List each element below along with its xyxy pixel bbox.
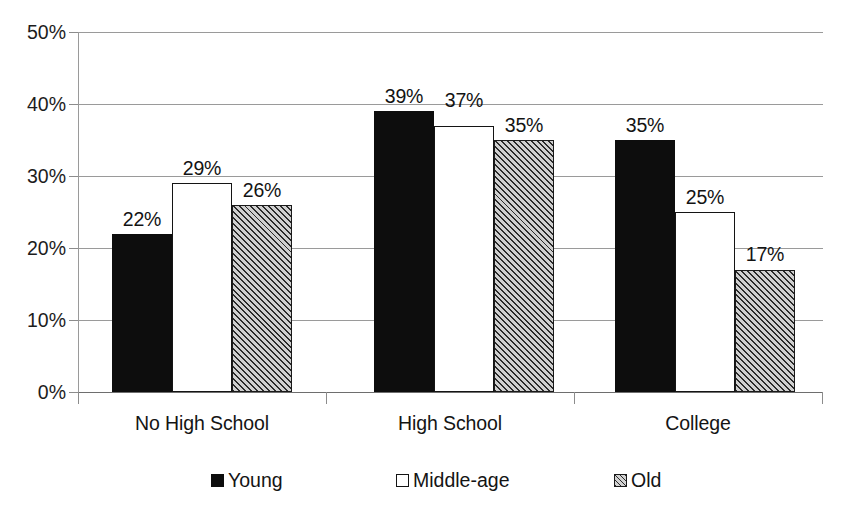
bar-middle-age-high-school [434,126,494,392]
y-tick-mark-20 [69,248,78,249]
x-axis-label-high-school: High School [326,412,574,435]
y-tick-label-10: 10% [0,309,66,332]
x-axis-line [78,392,823,393]
legend: Young Middle-age Old [0,469,841,499]
legend-entry-young: Young [211,469,283,492]
gridline-50 [78,32,823,33]
y-tick-label-0: 0% [0,381,66,404]
bar-middle-age-no-high-school [172,183,232,392]
y-tick-mark-10 [69,320,78,321]
bar-old-college [735,270,795,392]
value-label-middle-age-no-high-school: 29% [172,157,232,180]
x-axis-label-college: College [574,412,822,435]
y-tick-mark-40 [69,104,78,105]
plot-area: 22% 29% 26% 39% 37% 35% 35% 25% 17% [78,32,823,392]
bar-middle-age-college [675,212,735,392]
x-axis-separator-1 [326,392,327,404]
legend-swatch-old-icon [614,474,627,487]
y-tick-mark-30 [69,176,78,177]
x-axis-separator-right [822,392,823,404]
y-tick-label-30: 30% [0,165,66,188]
bar-chart: 50% 40% 30% 20% 10% 0% 22% 29% 26% [0,0,841,515]
value-label-old-no-high-school: 26% [232,179,292,202]
value-label-old-high-school: 35% [494,114,554,137]
value-label-young-college: 35% [615,114,675,137]
legend-swatch-young-icon [211,474,224,487]
value-label-middle-age-college: 25% [675,186,735,209]
x-axis-separator-2 [574,392,575,404]
bar-young-college [615,140,675,392]
bar-old-no-high-school [232,205,292,392]
legend-swatch-middle-age-icon [396,474,409,487]
legend-label-old: Old [631,469,661,492]
value-label-middle-age-high-school: 37% [434,89,494,112]
y-tick-mark-50 [69,32,78,33]
y-tick-label-20: 20% [0,237,66,260]
x-axis-separator-left [78,392,79,404]
x-axis-label-no-high-school: No High School [78,412,326,435]
legend-entry-middle-age: Middle-age [396,469,509,492]
bar-young-no-high-school [112,234,172,392]
legend-entry-old: Old [614,469,661,492]
value-label-young-no-high-school: 22% [112,208,172,231]
y-tick-label-50: 50% [0,21,66,44]
y-tick-mark-0 [69,392,78,393]
bar-young-high-school [374,111,434,392]
legend-label-young: Young [228,469,283,492]
bar-old-high-school [494,140,554,392]
y-tick-label-40: 40% [0,93,66,116]
value-label-old-college: 17% [735,243,795,266]
value-label-young-high-school: 39% [374,85,434,108]
legend-label-middle-age: Middle-age [413,469,509,492]
